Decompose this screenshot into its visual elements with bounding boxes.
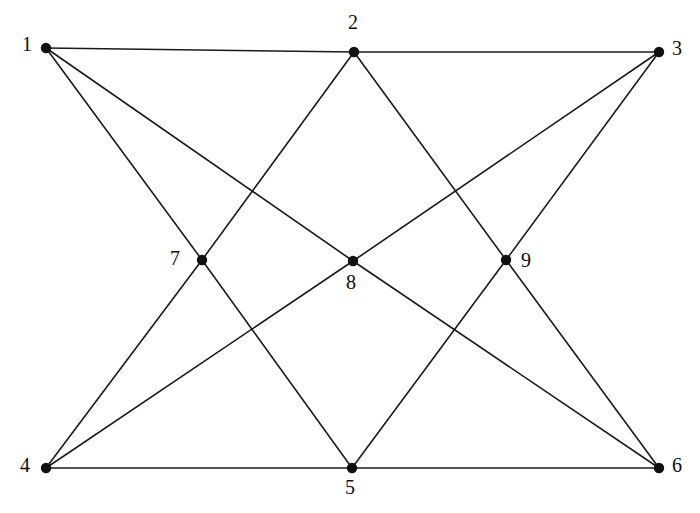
graph-edge-5-9	[352, 260, 506, 468]
graph-edge-3-8	[353, 52, 659, 261]
graph-diagram-canvas: 123456789	[0, 0, 700, 513]
graph-vertex-label-1: 1	[22, 34, 32, 54]
graph-vertex-9	[501, 255, 511, 265]
graph-vertex-label-7: 7	[170, 248, 180, 268]
graph-vertex-5	[347, 463, 357, 473]
graph-edge-1-7	[46, 48, 202, 260]
graph-vertex-label-2: 2	[348, 12, 358, 32]
graph-vertex-1	[41, 43, 51, 53]
graph-vertex-label-4: 4	[20, 455, 30, 475]
graph-edge-6-8	[353, 261, 659, 468]
graph-vertex-label-8: 8	[346, 272, 356, 292]
graph-vertex-7	[197, 255, 207, 265]
graph-vertex-label-5: 5	[345, 477, 355, 497]
graph-edge-2-7	[202, 52, 354, 260]
graph-svg	[0, 0, 700, 513]
graph-vertex-3	[654, 47, 664, 57]
graph-edge-1-2	[46, 48, 354, 52]
graph-edge-3-9	[506, 52, 659, 260]
graph-edge-4-8	[46, 261, 353, 468]
graph-edge-5-7	[202, 260, 352, 468]
graph-edge-1-8	[46, 48, 353, 261]
graph-vertex-8	[348, 256, 358, 266]
graph-vertex-6	[654, 463, 664, 473]
graph-vertex-4	[41, 463, 51, 473]
graph-edge-4-7	[46, 260, 202, 468]
graph-vertex-label-9: 9	[521, 250, 531, 270]
graph-vertex-label-6: 6	[672, 455, 682, 475]
graph-edge-6-9	[506, 260, 659, 468]
graph-vertex-label-3: 3	[672, 38, 682, 58]
graph-vertex-2	[349, 47, 359, 57]
graph-edge-2-9	[354, 52, 506, 260]
